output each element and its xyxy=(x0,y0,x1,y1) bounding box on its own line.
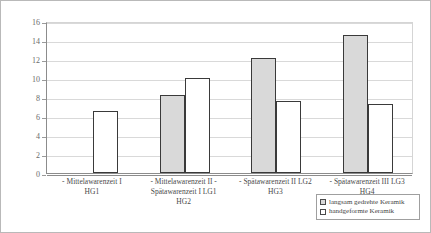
bar-group xyxy=(231,23,323,173)
x-axis-category-label: - Mittelawarenzeit IHG1 xyxy=(46,177,138,197)
bar xyxy=(343,35,368,173)
bar xyxy=(160,95,185,173)
bar xyxy=(185,78,210,173)
x-axis-category-line: - Spätawarenzeit III LG3 xyxy=(321,177,413,187)
x-axis-category-line: - Mittelawarenzeit I xyxy=(46,177,138,187)
y-axis-tick-label: 4 xyxy=(36,133,40,141)
bar-group xyxy=(322,23,414,173)
y-axis-tick-label: 8 xyxy=(36,95,40,103)
y-axis-tick-label: 16 xyxy=(32,19,40,27)
x-axis-category-label: - Mittelawarenzeit II -Spätawarenzeit I … xyxy=(138,177,230,207)
legend-swatch-icon xyxy=(320,209,326,215)
x-axis-category-line: - Spätawarenzeit II LG2 xyxy=(230,177,322,187)
legend-item[interactable]: langsam gedrehte Keramik xyxy=(320,198,416,207)
x-axis-category-line: HG3 xyxy=(230,187,322,197)
bar xyxy=(276,101,301,173)
x-axis-category-line: Spätawarenzeit I LG1 xyxy=(138,187,230,197)
y-axis-tick-label: 10 xyxy=(32,76,40,84)
y-axis-tick-label: 0 xyxy=(36,171,40,179)
legend-item-label: handgeformte Keramik xyxy=(329,207,394,216)
bar xyxy=(251,58,276,173)
bar-series-container xyxy=(47,23,412,173)
bar xyxy=(368,104,393,173)
legend-item[interactable]: handgeformte Keramik xyxy=(320,207,416,216)
x-axis-category-line: HG2 xyxy=(138,197,230,207)
y-axis-tick-label: 14 xyxy=(32,38,40,46)
y-axis-tick-label: 12 xyxy=(32,57,40,65)
plot-area xyxy=(46,22,413,174)
legend-item-label: langsam gedrehte Keramik xyxy=(329,198,404,207)
y-axis-tick-label: 2 xyxy=(36,152,40,160)
y-axis-tick-mark xyxy=(42,175,46,176)
x-axis-category-line: - Mittelawarenzeit II - xyxy=(138,177,230,187)
y-axis-tick-label: 6 xyxy=(36,114,40,122)
bar xyxy=(93,111,118,173)
legend-swatch-icon xyxy=(320,199,326,205)
chart-legend: langsam gedrehte Keramikhandgeformte Ker… xyxy=(316,194,420,220)
bar-group xyxy=(47,23,139,173)
gridline xyxy=(47,175,412,176)
chart-figure: 0246810121416 - Mittelawarenzeit IHG1- M… xyxy=(0,0,431,233)
bar-group xyxy=(139,23,231,173)
x-axis-category-label: - Spätawarenzeit II LG2HG3 xyxy=(230,177,322,197)
x-axis-category-line: HG1 xyxy=(46,187,138,197)
y-axis: 0246810121416 xyxy=(1,22,46,175)
